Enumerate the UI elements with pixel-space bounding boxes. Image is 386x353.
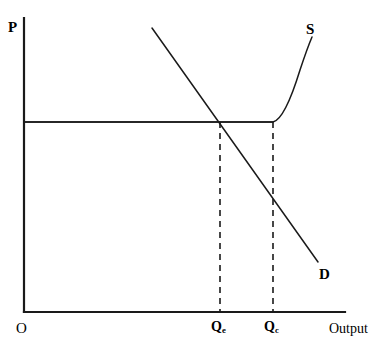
supply-demand-figure: P O Output S D Qe Qc [0, 0, 386, 353]
x-axis-label: Output [329, 322, 368, 336]
capacity-quantity-subscript: c [275, 325, 279, 335]
y-axis-label: P [8, 20, 17, 35]
equilibrium-quantity-subscript: e [222, 325, 226, 335]
demand-curve-label: D [319, 267, 330, 282]
supply-curve-label: S [306, 22, 314, 37]
equilibrium-quantity-base: Q [211, 319, 222, 334]
origin-label: O [16, 321, 27, 336]
equilibrium-quantity-label: Qe [211, 320, 226, 334]
capacity-quantity-label: Qc [264, 320, 279, 334]
capacity-quantity-base: Q [264, 319, 275, 334]
demand-curve [152, 28, 318, 262]
diagram-canvas [0, 0, 386, 353]
